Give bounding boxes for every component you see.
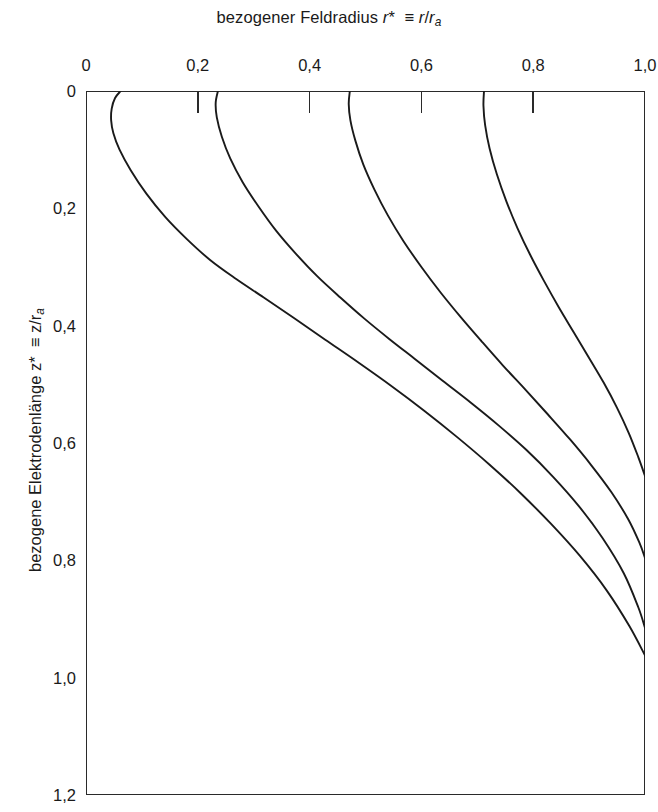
- curve-4: [483, 91, 645, 476]
- x-tick-label-4: 0,8: [522, 56, 545, 75]
- y-axis-label-star: *: [26, 356, 44, 362]
- curve-2: [216, 91, 645, 628]
- y-axis-label-symbol-z2: z: [26, 325, 44, 333]
- curve-1: [111, 91, 645, 655]
- chart-title: bezogener Feldradius r* ≡ r/ra: [0, 8, 658, 29]
- x-tick-label-0: 0: [81, 56, 90, 75]
- y-tick-label-4: 0,8: [53, 551, 76, 570]
- y-tick-label-0: 0: [67, 82, 76, 101]
- chart-title-equiv: ≡: [404, 8, 414, 26]
- chart-title-text: bezogener Feldradius: [217, 8, 383, 26]
- y-axis-label-equiv: ≡: [26, 338, 44, 348]
- curves-layer: [86, 91, 645, 795]
- y-tick-label-5: 1,0: [53, 668, 76, 687]
- x-tick-label-5: 1,0: [634, 56, 657, 75]
- chart-figure: bezogener Feldradius r* ≡ r/ra bezogene …: [0, 0, 658, 812]
- y-tick-label-6: 1,2: [53, 786, 76, 805]
- y-axis-label-symbol-r: r: [26, 315, 44, 321]
- y-axis-label-subscript-a: a: [33, 308, 47, 315]
- y-tick-label-1: 0,2: [53, 199, 76, 218]
- y-axis-label-symbol-z: z: [26, 363, 44, 371]
- y-tick-label-3: 0,6: [53, 434, 76, 453]
- curve-3: [349, 91, 645, 558]
- y-axis-label-text: bezogene Elektrodenlänge: [26, 371, 44, 572]
- chart-title-star: *: [388, 8, 395, 26]
- y-axis-label-slash: /: [26, 320, 44, 325]
- chart-title-subscript-a: a: [435, 15, 442, 29]
- y-tick-label-2: 0,4: [53, 316, 76, 335]
- x-tick-label-3: 0,6: [410, 56, 433, 75]
- x-tick-label-1: 0,2: [186, 56, 209, 75]
- x-tick-label-2: 0,4: [298, 56, 321, 75]
- y-axis-label: bezogene Elektrodenlänge z* ≡ z/ra: [26, 110, 50, 770]
